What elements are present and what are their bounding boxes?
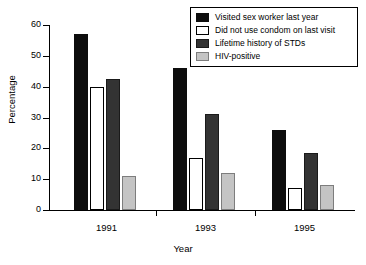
legend-swatch-icon — [196, 39, 209, 48]
y-axis-tick-label: 60 — [31, 20, 41, 29]
bar-1991-series-1 — [90, 87, 104, 210]
legend-label: Visited sex worker last year — [215, 13, 318, 22]
y-axis-title: Percentage — [6, 55, 17, 145]
legend-item: Visited sex worker last year — [196, 11, 353, 23]
y-axis-tick — [43, 87, 49, 88]
y-axis-tick — [43, 56, 49, 57]
legend-item: Did not use condom on last visit — [196, 24, 353, 36]
bar-1995-series-0 — [272, 130, 286, 210]
y-axis-tick-label: 50 — [31, 51, 41, 60]
bar-1993-series-2 — [205, 114, 219, 210]
y-axis-line — [49, 25, 50, 210]
legend-swatch-icon — [196, 13, 209, 22]
bar-1995-series-2 — [304, 153, 318, 210]
x-axis-tick — [255, 210, 256, 216]
legend-swatch-icon — [196, 26, 209, 35]
y-axis-tick — [43, 179, 49, 180]
y-axis-tick-label: 40 — [31, 82, 41, 91]
x-axis-tick — [156, 210, 157, 216]
x-axis-title: Year — [0, 243, 366, 254]
bar-1993-series-1 — [189, 158, 203, 210]
bar-group-1991 — [74, 25, 136, 210]
y-axis-tick-label: 20 — [31, 143, 41, 152]
y-axis-tick — [43, 118, 49, 119]
y-axis-tick-label: 10 — [31, 174, 41, 183]
bar-1993-series-3 — [221, 173, 235, 210]
y-axis-tick — [43, 25, 49, 26]
bar-1995-series-1 — [288, 188, 302, 210]
y-axis-tick-label: 30 — [31, 113, 41, 122]
legend-item: Lifetime history of STDs — [196, 37, 353, 49]
legend-label: Lifetime history of STDs — [215, 39, 305, 48]
bar-1991-series-0 — [74, 34, 88, 210]
legend-item: HIV-positive — [196, 50, 353, 62]
chart-legend: Visited sex worker last yearDid not use … — [190, 7, 358, 67]
legend-swatch-icon — [196, 52, 209, 61]
legend-label: HIV-positive — [215, 52, 260, 61]
bar-1993-series-0 — [173, 68, 187, 210]
x-axis-tick-label: 1995 — [275, 222, 335, 233]
bar-chart: 0102030405060 Percentage Year Visited se… — [0, 0, 366, 265]
y-axis-tick — [43, 148, 49, 149]
bar-1991-series-2 — [106, 79, 120, 210]
x-axis-tick-label: 1993 — [176, 222, 236, 233]
x-axis-line — [49, 210, 355, 211]
y-axis-tick-label: 0 — [36, 205, 41, 214]
legend-label: Did not use condom on last visit — [215, 26, 335, 35]
bar-1991-series-3 — [122, 176, 136, 210]
y-axis-tick — [43, 210, 49, 211]
bar-1995-series-3 — [320, 185, 334, 210]
x-axis-tick-label: 1991 — [77, 222, 137, 233]
